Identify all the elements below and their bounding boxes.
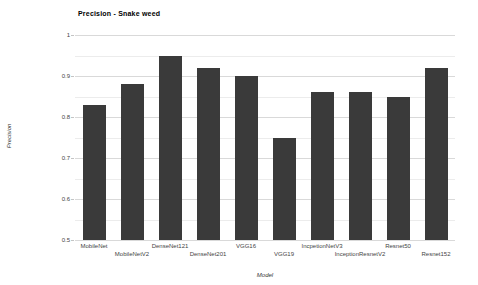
y-tick-mark-0.9	[71, 76, 74, 77]
minor-gridline-0.95	[75, 56, 455, 57]
y-tick-mark-0.5	[71, 240, 74, 241]
bar-chart: Precision - Snake weed Precision 10.90.8…	[0, 0, 478, 285]
y-tick-label-0.9: 0.9	[52, 73, 70, 79]
y-tick-mark-1	[71, 35, 74, 36]
bar-VGG16	[235, 76, 258, 240]
bar-InceptionResnetV2	[349, 92, 372, 240]
x-tick-label-Resnet152: Resnet152	[396, 251, 476, 257]
x-tick-label-IncpetionNetV3: IncpetionNetV3	[282, 243, 362, 249]
x-tick-label-MobileNetV2: MobileNetV2	[92, 251, 172, 257]
major-gridline-1.00	[75, 35, 455, 36]
y-tick-mark-0.7	[71, 158, 74, 159]
y-tick-mark-0.8	[71, 117, 74, 118]
bar-Resnet50	[387, 97, 410, 241]
bar-VGG19	[273, 138, 296, 241]
x-tick-label-DenseNet201: DenseNet201	[168, 251, 248, 257]
bar-DenseNet201	[197, 68, 220, 240]
x-tick-label-VGG19: VGG19	[244, 251, 324, 257]
major-gridline-0.50	[75, 240, 455, 241]
x-tick-label-InceptionResnetV2: InceptionResnetV2	[320, 251, 400, 257]
bar-MobileNet	[83, 105, 106, 240]
bar-Resnet152	[425, 68, 448, 240]
bar-MobileNetV2	[121, 84, 144, 240]
y-tick-label-0.6: 0.6	[52, 196, 70, 202]
x-tick-label-Resnet50: Resnet50	[358, 243, 438, 249]
major-gridline-0.90	[75, 76, 455, 77]
x-tick-label-VGG16: VGG16	[206, 243, 286, 249]
x-tick-label-MobileNet: MobileNet	[54, 243, 134, 249]
x-axis-title: Model	[75, 272, 455, 278]
y-tick-label-0.7: 0.7	[52, 155, 70, 161]
plot-area	[75, 35, 455, 240]
y-tick-mark-0.6	[71, 199, 74, 200]
y-axis-title: Precision	[6, 101, 12, 171]
chart-title: Precision - Snake weed	[78, 10, 160, 17]
bar-DenseNet121	[159, 56, 182, 241]
x-tick-label-DenseNet121: DenseNet121	[130, 243, 210, 249]
y-tick-label-0.8: 0.8	[52, 114, 70, 120]
y-tick-label-1: 1	[52, 32, 70, 38]
bar-IncpetionNetV3	[311, 92, 334, 240]
